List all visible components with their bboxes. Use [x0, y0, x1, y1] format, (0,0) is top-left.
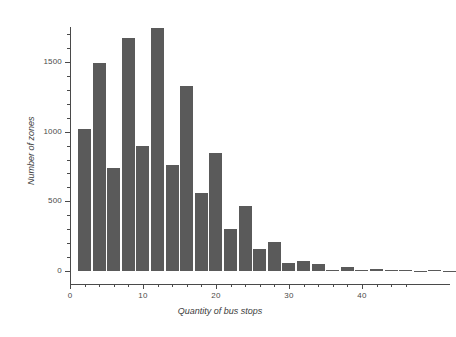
histogram-bar — [268, 242, 281, 271]
x-axis-tick-minor — [260, 284, 261, 287]
x-axis-tick-minor — [99, 284, 100, 287]
y-axis-tick-minor — [67, 215, 70, 216]
x-axis-tick-major — [216, 284, 217, 289]
y-axis-tick-minor — [67, 90, 70, 91]
y-axis-tick-minor — [67, 243, 70, 244]
histogram-bar — [282, 263, 295, 271]
y-axis-line — [70, 27, 71, 284]
histogram-bar — [428, 270, 441, 271]
histogram-bar — [370, 269, 383, 271]
histogram-bar — [239, 206, 252, 271]
y-axis-tick-major — [65, 132, 70, 133]
x-axis-tick-minor — [274, 284, 275, 287]
histogram-bar — [414, 271, 427, 272]
x-axis-tick-major — [143, 284, 144, 289]
histogram-bar — [385, 270, 398, 271]
histogram-bar — [443, 271, 456, 272]
y-axis-tick-major — [65, 201, 70, 202]
histogram-bar — [341, 267, 354, 271]
x-axis-tick-minor — [187, 284, 188, 287]
x-axis-tick-label: 40 — [348, 291, 376, 300]
histogram-bar — [209, 153, 222, 271]
x-axis-tick-major — [70, 284, 71, 289]
histogram-bar — [355, 270, 368, 271]
x-axis-tick-label: 20 — [202, 291, 230, 300]
x-axis-tick-label: 10 — [129, 291, 157, 300]
y-axis-tick-label: 500 — [28, 196, 62, 205]
y-axis-tick-minor — [67, 160, 70, 161]
y-axis-tick-minor — [67, 48, 70, 49]
y-axis-tick-minor — [67, 76, 70, 77]
x-axis-tick-minor — [172, 284, 173, 287]
x-axis-tick-minor — [318, 284, 319, 287]
y-axis-tick-minor — [67, 173, 70, 174]
y-axis-tick-minor — [67, 118, 70, 119]
y-axis-tick-minor — [67, 104, 70, 105]
x-axis-tick-major — [289, 284, 290, 289]
x-axis-tick-minor — [347, 284, 348, 287]
x-axis-tick-minor — [333, 284, 334, 287]
x-axis-tick-minor — [114, 284, 115, 287]
y-axis-tick-minor — [67, 146, 70, 147]
histogram-bar — [297, 261, 310, 271]
x-axis-tick-minor — [391, 284, 392, 287]
x-axis-tick-label: 0 — [56, 291, 84, 300]
x-axis-tick-minor — [158, 284, 159, 287]
histogram-bar — [107, 168, 120, 271]
histogram-bar — [151, 28, 164, 271]
x-axis-tick-label: 30 — [275, 291, 303, 300]
histogram-bar — [399, 270, 412, 271]
histogram-bar — [224, 229, 237, 272]
y-axis-tick-label: 1500 — [28, 57, 62, 66]
histogram-bar — [312, 264, 325, 271]
histogram-bar — [93, 63, 106, 271]
y-axis-tick-minor — [67, 257, 70, 258]
y-axis-tick-minor — [67, 187, 70, 188]
histogram-bar — [195, 193, 208, 271]
y-axis-tick-major — [65, 62, 70, 63]
y-axis-tick-minor — [67, 34, 70, 35]
histogram-bar — [78, 129, 91, 271]
x-axis-tick-major — [362, 284, 363, 289]
x-axis-tick-minor — [231, 284, 232, 287]
histogram-bar — [166, 165, 179, 271]
histogram-bar — [180, 86, 193, 271]
y-axis-tick-label: 1000 — [28, 127, 62, 136]
histogram-bar — [136, 146, 149, 271]
x-axis-tick-minor — [85, 284, 86, 287]
y-axis-tick-major — [65, 271, 70, 272]
histogram-bar — [122, 38, 135, 271]
y-axis-tick-minor — [67, 229, 70, 230]
x-axis-tick-minor — [377, 284, 378, 287]
x-axis-tick-minor — [128, 284, 129, 287]
x-axis-tick-minor — [304, 284, 305, 287]
x-axis-tick-minor — [406, 284, 407, 287]
histogram-bar — [253, 249, 266, 271]
histogram-bar — [326, 270, 339, 271]
x-axis-tick-minor — [245, 284, 246, 287]
y-axis-tick-label: 0 — [28, 266, 62, 275]
x-axis-tick-minor — [201, 284, 202, 287]
